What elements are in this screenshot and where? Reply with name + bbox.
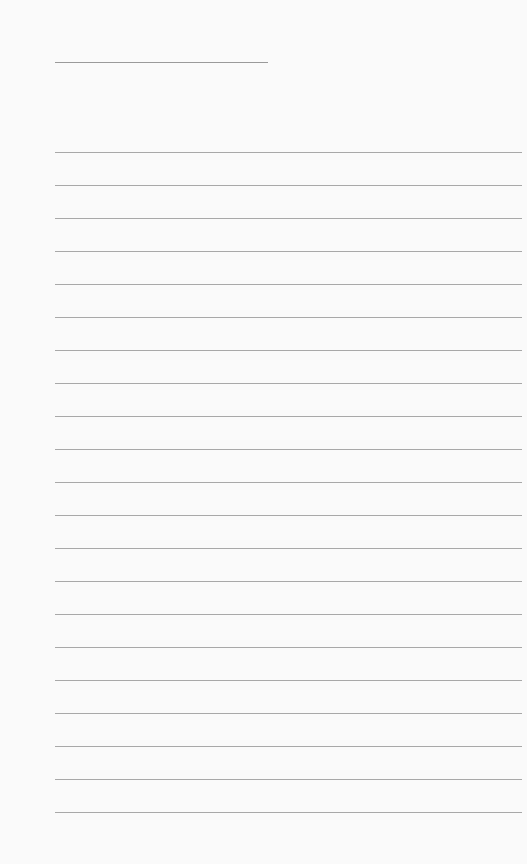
ruled-line (55, 713, 522, 714)
ruled-line (55, 548, 522, 549)
ruled-line (55, 416, 522, 417)
ruled-line (55, 449, 522, 450)
ruled-line (55, 218, 522, 219)
ruled-line (55, 746, 522, 747)
ruled-line (55, 284, 522, 285)
ruled-line (55, 317, 522, 318)
ruled-line (55, 647, 522, 648)
title-line (55, 62, 268, 63)
ruled-line (55, 581, 522, 582)
ruled-line (55, 482, 522, 483)
lined-paper (0, 0, 527, 864)
ruled-line (55, 350, 522, 351)
ruled-line (55, 185, 522, 186)
ruled-line (55, 812, 522, 813)
ruled-line (55, 152, 522, 153)
ruled-line (55, 383, 522, 384)
ruled-line (55, 515, 522, 516)
ruled-line (55, 614, 522, 615)
ruled-line (55, 680, 522, 681)
ruled-line (55, 251, 522, 252)
ruled-line (55, 779, 522, 780)
